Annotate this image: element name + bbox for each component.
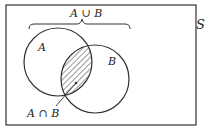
universe-label: S [196, 17, 205, 32]
set-a-label: A [37, 41, 46, 54]
intersection-label: A ∩ B [26, 107, 59, 120]
union-label: A ∪ B [69, 7, 102, 20]
union-brace [29, 19, 130, 29]
set-b-label: B [107, 55, 116, 68]
venn-diagram: A ∪ B S A B A ∩ B [0, 0, 211, 132]
